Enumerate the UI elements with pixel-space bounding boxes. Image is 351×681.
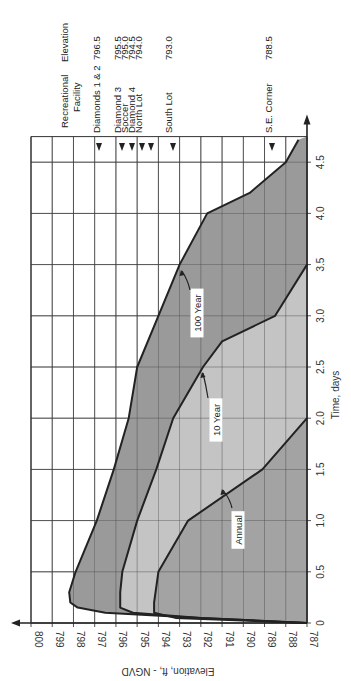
tick-label-elev: 788 (287, 631, 298, 648)
tick-label-time: 3.5 (315, 257, 326, 271)
curve-label: 10 Year (211, 404, 222, 436)
tick-label-elev: 793 (181, 631, 192, 648)
table-facility-name: S.E. Corner (263, 83, 274, 133)
table-header-facility: Recreational (59, 75, 70, 128)
curve-label: 100 Year (192, 294, 203, 332)
x-axis-title: Time, days (330, 371, 341, 420)
facility-marker-triangle-icon (148, 143, 154, 151)
facility-table: RecreationalFacilityElevationDiamonds 1 … (59, 23, 274, 133)
tick-label-time: 1.0 (315, 513, 326, 527)
tick-label-elev: 797 (96, 631, 107, 648)
arrow-up-icon (303, 115, 310, 125)
tick-label-elev: 796 (117, 631, 128, 648)
table-facility-name: South Lot (163, 92, 174, 133)
series-fills (69, 137, 307, 623)
tick-label-time: 1.5 (315, 462, 326, 476)
table-header-elevation: Elevation (59, 23, 70, 62)
tick-label-elev: 795 (139, 631, 150, 648)
tick-label-elev: 800 (33, 631, 44, 648)
tick-label-time: 4.0 (315, 206, 326, 220)
table-elevation-value: 794.0 (133, 36, 144, 60)
facility-markers (96, 143, 275, 151)
y-axis-title: Elevation, ft, - NGVD (122, 666, 215, 677)
facility-marker-triangle-icon (170, 143, 176, 151)
facility-marker-triangle-icon (119, 143, 125, 151)
facility-marker-triangle-icon (269, 143, 275, 151)
tick-label-time: 4.5 (315, 155, 326, 169)
tick-label-elev: 794 (160, 631, 171, 648)
table-elevation-value: 788.5 (263, 36, 274, 60)
arrow-left-icon (11, 620, 20, 627)
table-elevation-value: 796.5 (91, 36, 102, 60)
curve-label: Annual (233, 515, 244, 545)
tick-label-time: 3.0 (315, 308, 326, 322)
tick-label-elev: 798 (75, 631, 86, 648)
tick-label-time: 0 (315, 620, 326, 626)
table-facility-name: Diamonds 1 & 2 (91, 65, 102, 133)
tick-label-elev: 787 (308, 631, 319, 648)
tick-label-time: 2.5 (315, 360, 326, 374)
tick-label-elev: 799 (54, 631, 65, 648)
tick-label-elev: 790 (245, 631, 256, 648)
table-facility-name: North Lot (133, 94, 144, 133)
facility-marker-triangle-icon (96, 143, 102, 151)
tick-label-time: 2.0 (315, 411, 326, 425)
table-header-facility: Facility (71, 82, 82, 112)
tick-label-elev: 789 (266, 631, 277, 648)
flood-elevation-chart: 8007997987977967957947937927917907897887… (0, 0, 351, 681)
table-elevation-value: 793.0 (163, 36, 174, 60)
tick-label-time: 0.5 (315, 564, 326, 578)
tick-label-elev: 791 (224, 631, 235, 648)
facility-marker-triangle-icon (139, 143, 145, 151)
facility-marker-triangle-icon (129, 143, 135, 151)
tick-label-elev: 792 (202, 631, 213, 648)
